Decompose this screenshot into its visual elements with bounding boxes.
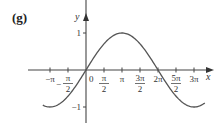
x-tick-label: 3π (189, 74, 199, 84)
x-tick-label: π (120, 74, 125, 84)
sine-plot: xy0−π−π2π2π3π22π5π23π1−1 (0, 0, 222, 123)
x-tick-label-minus: − (56, 79, 61, 89)
y-tick-label: −1 (71, 102, 81, 112)
x-tick-label-denominator: 2 (174, 84, 179, 94)
x-tick-label-denominator: 2 (102, 84, 107, 94)
y-tick-label: 1 (77, 28, 82, 38)
x-tick-label: −π (45, 74, 55, 84)
x-tick-label-numerator: π (102, 73, 107, 83)
origin-label: 0 (89, 74, 94, 84)
x-tick-label-denominator: 2 (66, 84, 71, 94)
tick-labels: xy0−π−π2π2π3π22π5π23π1−1 (45, 11, 211, 112)
y-axis-arrow-icon (83, 13, 89, 21)
y-axis-label: y (74, 11, 80, 22)
x-tick-label-numerator: π (66, 73, 71, 83)
x-tick-label-denominator: 2 (138, 84, 143, 94)
x-tick-label-numerator: 5π (171, 73, 181, 83)
x-tick-label-numerator: 3π (135, 73, 145, 83)
x-axis-label: x (205, 71, 211, 82)
